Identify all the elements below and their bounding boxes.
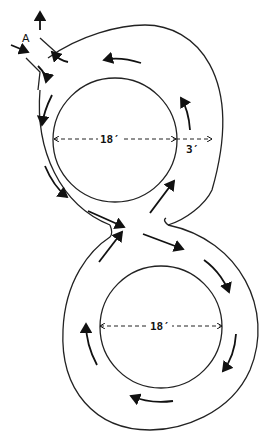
crossing-arrow-1 <box>88 211 124 227</box>
crossing-arrow-2 <box>143 234 183 249</box>
top-loop-outer-left <box>39 90 110 225</box>
entrance-label: A <box>22 32 30 45</box>
bottom-loop-outer-crossing-left <box>110 225 112 237</box>
exit-turn-arrow <box>52 52 68 62</box>
top-arrow-1 <box>104 59 141 63</box>
top-arrow-3 <box>42 95 52 125</box>
bottom-loop-outer-crossing-right <box>165 218 168 225</box>
bottom-diameter-label: 18′ <box>150 320 170 333</box>
top-arrow-2 <box>181 98 190 130</box>
bottom-arrow-3 <box>131 396 173 402</box>
bottom-arrow-2 <box>223 334 236 371</box>
entrance-line-upper <box>40 38 60 56</box>
top-arrow-5 <box>150 181 174 213</box>
track-width-label: 3′ <box>186 143 199 156</box>
entry-arrow <box>11 45 28 52</box>
top-arrow-4 <box>45 166 67 197</box>
bottom-arrow-4 <box>86 324 97 365</box>
top-loop-outer-edge <box>48 25 223 225</box>
entrance-line-lower <box>26 58 40 90</box>
figure-eight-diagram: 18′ 3′ 18′ A <box>0 0 273 442</box>
top-diameter-label: 18′ <box>100 133 120 146</box>
